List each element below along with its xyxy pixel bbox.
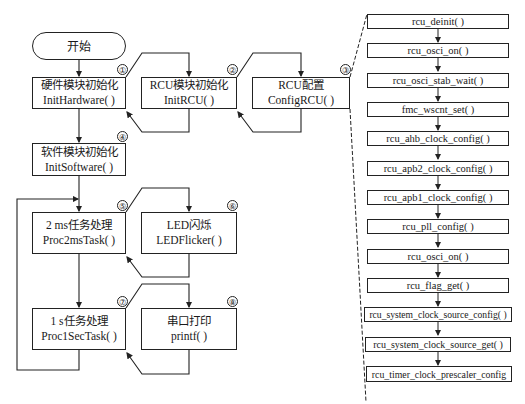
marker-1: ① [117, 64, 128, 75]
start-terminal: 开始 [32, 32, 126, 60]
step-printf: 串口打印 printf( ) [141, 308, 237, 350]
rcu-seq-item: rcu_osci_stab_wait( ) [367, 73, 509, 88]
rcu-seq-label: rcu_pll_config( ) [402, 221, 473, 232]
step-title: 2 ms任务处理 [46, 218, 112, 233]
step-func: Proc2msTask( ) [43, 233, 115, 248]
rcu-seq-label: rcu_deinit( ) [412, 16, 464, 27]
step-init-software: 软件模块初始化 InitSoftware( ) [32, 143, 126, 176]
step-proc-2ms-task: 2 ms任务处理 Proc2msTask( ) [32, 212, 126, 254]
rcu-seq-item: rcu_flag_get( ) [367, 278, 509, 293]
step-func: Proc1SecTask( ) [41, 329, 117, 344]
rcu-seq-label: rcu_system_clock_source_config( ) [369, 309, 506, 320]
rcu-seq-label: rcu_osci_stab_wait( ) [393, 75, 484, 86]
rcu-seq-label: rcu_apb2_clock_config( ) [384, 163, 493, 174]
rcu-seq-label: rcu_system_clock_source_get( ) [373, 339, 503, 350]
rcu-seq-item: rcu_timer_clock_prescaler_config [366, 366, 512, 382]
rcu-seq-label: rcu_apb1_clock_config( ) [384, 192, 493, 203]
step-init-rcu: RCU模块初始化 InitRCU( ) [141, 77, 237, 109]
rcu-seq-item: rcu_deinit( ) [367, 14, 509, 29]
rcu-seq-item: rcu_ahb_clock_config( ) [367, 131, 509, 146]
step-title: 1 s任务处理 [50, 314, 107, 329]
step-func: InitRCU( ) [164, 93, 214, 108]
marker-3: ③ [340, 64, 351, 75]
rcu-seq-item: rcu_osci_on( ) [367, 43, 509, 58]
step-func: InitHardware( ) [43, 93, 115, 108]
step-config-rcu: RCU配置 ConfigRCU( ) [252, 77, 350, 109]
rcu-seq-label: rcu_timer_clock_prescaler_config [372, 369, 506, 380]
step-led-flicker: LED闪烁 LEDFlicker( ) [141, 212, 237, 254]
rcu-seq-item: rcu_system_clock_source_get( ) [365, 337, 511, 352]
rcu-seq-item: rcu_apb2_clock_config( ) [367, 161, 509, 176]
step-func: printf( ) [171, 329, 207, 344]
rcu-seq-item: rcu_osci_on( ) [367, 249, 509, 264]
step-init-hardware: 硬件模块初始化 InitHardware( ) [32, 77, 126, 109]
marker-5: ⑤ [117, 200, 128, 211]
start-label: 开始 [67, 37, 91, 55]
marker-8: ⑧ [227, 296, 238, 307]
step-title: RCU模块初始化 [150, 78, 229, 93]
marker-2: ② [227, 64, 238, 75]
rcu-seq-item: fmc_wscnt_set( ) [367, 102, 509, 117]
rcu-seq-item: rcu_pll_config( ) [367, 219, 509, 234]
rcu-seq-label: rcu_osci_on( ) [408, 251, 469, 262]
marker-6: ⑥ [227, 200, 238, 211]
step-proc-1sec-task: 1 s任务处理 Proc1SecTask( ) [32, 308, 126, 350]
step-func: InitSoftware( ) [45, 160, 113, 175]
rcu-seq-label: rcu_ahb_clock_config( ) [386, 133, 490, 144]
rcu-seq-item: rcu_apb1_clock_config( ) [367, 190, 509, 205]
step-title: 硬件模块初始化 [41, 78, 118, 93]
step-title: 串口打印 [167, 314, 211, 329]
marker-7: ⑦ [117, 296, 128, 307]
rcu-seq-item: rcu_system_clock_source_config( ) [364, 307, 512, 322]
rcu-seq-label: fmc_wscnt_set( ) [402, 104, 475, 115]
rcu-seq-label: rcu_osci_on( ) [408, 45, 469, 56]
step-func: LEDFlicker( ) [156, 233, 221, 248]
step-title: 软件模块初始化 [41, 145, 118, 160]
rcu-seq-label: rcu_flag_get( ) [407, 280, 470, 291]
step-func: ConfigRCU( ) [268, 93, 334, 108]
step-title: LED闪烁 [167, 218, 211, 233]
marker-4: ④ [117, 131, 128, 142]
step-title: RCU配置 [278, 78, 324, 93]
